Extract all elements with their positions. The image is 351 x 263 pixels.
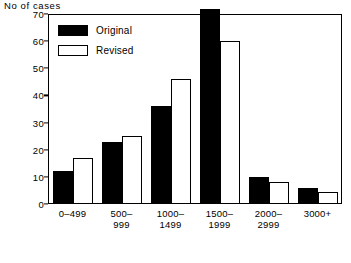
bar-group: [195, 14, 244, 204]
x-tick-label-line1: 0–499: [59, 208, 86, 219]
legend: Original Revised: [58, 22, 134, 62]
x-tick-label-line1: 3000+: [304, 208, 332, 219]
bar-revised: [269, 182, 289, 204]
bar-revised: [73, 158, 93, 204]
bar-group: [293, 14, 342, 204]
y-tick-label: 0: [24, 199, 44, 210]
x-tick-label: 500–999: [111, 208, 133, 230]
y-tick-label: 40: [24, 90, 44, 101]
bar-original: [102, 142, 122, 204]
legend-item-original: Original: [58, 22, 134, 38]
bar-revised: [122, 136, 142, 204]
x-tick-label-line2: 999: [111, 219, 133, 230]
bar-chart: No of cases 706050403020100 0–499500–999…: [0, 0, 351, 263]
bar-revised: [220, 41, 240, 204]
bar-revised: [171, 79, 191, 204]
x-tick-label-line1: 1000–: [157, 208, 184, 219]
x-tick-label: 1500–1999: [206, 208, 233, 230]
bar-original: [151, 106, 171, 204]
x-tick-label: 1000–1499: [157, 208, 184, 230]
y-tick-label: 70: [24, 9, 44, 20]
y-tick-label: 20: [24, 144, 44, 155]
x-tick-label-line1: 1500–: [206, 208, 233, 219]
bar-revised: [318, 192, 338, 204]
x-tick-label-line2: 2999: [255, 219, 282, 230]
x-tick-label-line2: 1999: [206, 219, 233, 230]
bar-group: [146, 14, 195, 204]
x-tick-label-line1: 500–: [111, 208, 133, 219]
x-tick-label-line1: 2000–: [255, 208, 282, 219]
bar-original: [200, 9, 220, 204]
legend-swatch-revised-icon: [58, 45, 88, 56]
x-tick-label: 2000–2999: [255, 208, 282, 230]
legend-label-original: Original: [96, 25, 132, 36]
x-tick-label-line2: 1499: [157, 219, 184, 230]
y-tick-label: 50: [24, 63, 44, 74]
y-tick-label: 60: [24, 36, 44, 47]
y-tick-label: 30: [24, 117, 44, 128]
legend-swatch-original-icon: [58, 25, 88, 36]
legend-item-revised: Revised: [58, 42, 134, 58]
x-tick-label: 3000+: [304, 208, 332, 219]
legend-label-revised: Revised: [96, 45, 134, 56]
bar-original: [53, 171, 73, 204]
bar-original: [298, 188, 318, 204]
bar-group: [244, 14, 293, 204]
x-tick-label: 0–499: [59, 208, 86, 219]
y-tick-label: 10: [24, 171, 44, 182]
bar-original: [249, 177, 269, 204]
